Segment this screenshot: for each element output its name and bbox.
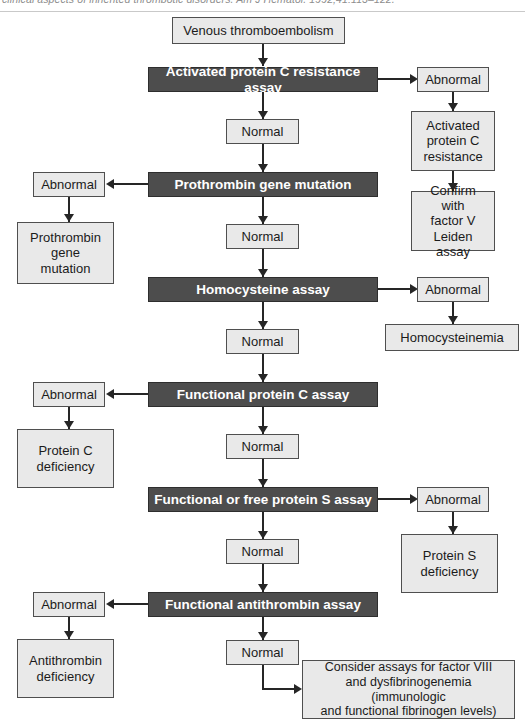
arrowhead-normal4-to-protein-s bbox=[258, 479, 268, 487]
arrowhead-normal1-to-prothrombin bbox=[258, 164, 268, 172]
node-label: Abnormal bbox=[36, 387, 102, 402]
node-label: Abnormal bbox=[36, 597, 102, 612]
arrowhead-normal2-to-homocysteine bbox=[258, 269, 268, 277]
citation-text: clinical aspects of inherited thrombotic… bbox=[2, 0, 395, 5]
node-label: Antithrombin deficiency bbox=[24, 653, 107, 684]
node-homocysteine-assay[interactable]: Homocysteine assay bbox=[148, 277, 378, 302]
node-functional-antithrombin-assay[interactable]: Functional antithrombin assay bbox=[148, 592, 378, 617]
arrowhead-abnormal-protein-s-to-result bbox=[448, 526, 458, 534]
arrowhead-abnormal-homocysteine-to-result bbox=[448, 316, 458, 324]
arrowhead-antithrombin-to-abnormal bbox=[106, 599, 114, 609]
arrowhead-protein-c-to-abnormal bbox=[106, 389, 114, 399]
node-venous-thromboembolism[interactable]: Venous thromboembolism bbox=[172, 17, 345, 44]
node-normal-1[interactable]: Normal bbox=[226, 119, 299, 144]
node-normal-2[interactable]: Normal bbox=[226, 224, 299, 249]
node-abnormal-prothrombin[interactable]: Abnormal bbox=[33, 172, 105, 197]
node-label: Abnormal bbox=[420, 492, 486, 507]
node-label: Normal bbox=[237, 124, 289, 139]
node-protein-s-deficiency[interactable]: Protein S deficiency bbox=[401, 534, 498, 593]
connector-prothrombin-to-abnormal bbox=[110, 183, 148, 185]
node-label: Normal bbox=[237, 334, 289, 349]
node-label: Normal bbox=[237, 544, 289, 559]
node-label: Prothrombin gene mutation bbox=[170, 177, 357, 193]
node-label: Venous thromboembolism bbox=[178, 23, 338, 38]
arrowhead-antithrombin-to-normal6 bbox=[258, 632, 268, 640]
arrowhead-normal6-to-consider bbox=[294, 684, 302, 694]
arrowhead-prothrombin-to-abnormal bbox=[106, 179, 114, 189]
node-confirm-factor-v-leiden[interactable]: Confirm with factor V Leiden assay bbox=[411, 191, 495, 251]
node-homocysteinemia[interactable]: Homocysteinemia bbox=[385, 324, 519, 351]
node-label: Abnormal bbox=[36, 177, 102, 192]
arrowhead-protein-s-to-normal5 bbox=[258, 531, 268, 539]
node-label: Confirm with factor V Leiden assay bbox=[412, 183, 494, 260]
node-label: Activated protein C resistance assay bbox=[149, 64, 377, 96]
arrowhead-apc-to-normal1 bbox=[258, 111, 268, 119]
connector-normal6-down bbox=[262, 665, 264, 690]
node-label: Abnormal bbox=[420, 282, 486, 297]
node-normal-5[interactable]: Normal bbox=[226, 539, 299, 564]
node-label: Functional antithrombin assay bbox=[160, 597, 366, 613]
node-label: Normal bbox=[237, 439, 289, 454]
arrowhead-prothrombin-to-normal2 bbox=[258, 216, 268, 224]
node-abnormal-homocysteine[interactable]: Abnormal bbox=[417, 277, 489, 302]
connector-normal6-elbow bbox=[262, 688, 298, 690]
header-divider bbox=[0, 11, 525, 12]
connector-antithrombin-to-abnormal bbox=[110, 603, 148, 605]
node-abnormal-protein-c[interactable]: Abnormal bbox=[33, 382, 105, 407]
arrowhead-abnormal-protein-c-to-result bbox=[64, 421, 74, 429]
node-label: Abnormal bbox=[420, 72, 486, 87]
node-label: Functional or free protein S assay bbox=[149, 492, 377, 508]
node-normal-4[interactable]: Normal bbox=[226, 434, 299, 459]
flowchart-page: clinical aspects of inherited thrombotic… bbox=[0, 0, 525, 723]
connector-protein-c-to-abnormal bbox=[110, 393, 148, 395]
arrowhead-abnormal-apc-to-result bbox=[448, 103, 458, 111]
node-label: Homocysteinemia bbox=[395, 330, 508, 345]
node-functional-protein-c-assay[interactable]: Functional protein C assay bbox=[148, 382, 378, 407]
node-antithrombin-deficiency[interactable]: Antithrombin deficiency bbox=[17, 639, 114, 698]
node-normal-6[interactable]: Normal bbox=[226, 640, 299, 665]
node-label: Prothrombin gene mutation bbox=[25, 230, 106, 276]
arrowhead-homocysteine-to-normal3 bbox=[258, 321, 268, 329]
node-normal-3[interactable]: Normal bbox=[226, 329, 299, 354]
node-abnormal-antithrombin[interactable]: Abnormal bbox=[33, 592, 105, 617]
node-label: Protein S deficiency bbox=[416, 548, 484, 579]
arrowhead-normal5-to-antithrombin bbox=[258, 584, 268, 592]
node-prothrombin-gene-mutation-assay[interactable]: Prothrombin gene mutation bbox=[148, 172, 378, 197]
node-abnormal-protein-s[interactable]: Abnormal bbox=[417, 487, 489, 512]
node-consider-assays[interactable]: Consider assays for factor VIII and dysf… bbox=[302, 660, 515, 719]
arrowhead-normal3-to-protein-c bbox=[258, 374, 268, 382]
node-protein-c-deficiency[interactable]: Protein C deficiency bbox=[17, 429, 114, 488]
node-label: Homocysteine assay bbox=[191, 282, 335, 298]
node-functional-or-free-protein-s-assay[interactable]: Functional or free protein S assay bbox=[148, 487, 378, 512]
arrowhead-abnormal-prothrombin-to-result bbox=[64, 214, 74, 222]
node-prothrombin-gene-mutation-result[interactable]: Prothrombin gene mutation bbox=[17, 222, 114, 284]
node-label: Consider assays for factor VIII and dysf… bbox=[303, 660, 514, 719]
node-label: Normal bbox=[237, 645, 289, 660]
arrowhead-abnormal-antithrombin-to-result bbox=[64, 631, 74, 639]
arrowhead-protein-c-to-normal4 bbox=[258, 426, 268, 434]
node-label: Protein C deficiency bbox=[32, 443, 100, 474]
node-activated-protein-c-resistance[interactable]: Activated protein C resistance bbox=[411, 111, 495, 171]
node-label: Normal bbox=[237, 229, 289, 244]
node-label: Activated protein C resistance bbox=[418, 118, 487, 164]
node-label: Functional protein C assay bbox=[172, 387, 355, 403]
node-abnormal-apc[interactable]: Abnormal bbox=[417, 67, 489, 92]
citation-strip: clinical aspects of inherited thrombotic… bbox=[0, 0, 525, 11]
node-activated-protein-c-resistance-assay[interactable]: Activated protein C resistance assay bbox=[148, 67, 378, 92]
